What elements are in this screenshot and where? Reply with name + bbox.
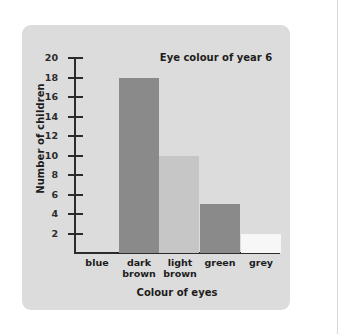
y-tick-label-2: 2 [36,229,58,238]
y-tick-16 [68,96,83,98]
y-tick-12 [68,135,83,137]
bar-dark-brown[interactable] [119,78,159,254]
y-tick-label-4: 4 [36,209,58,218]
y-tick-18 [68,77,83,79]
chart-title: Eye colour of year 6 [148,52,284,63]
y-tick-8 [68,174,83,176]
y-tick-4 [68,213,83,215]
y-tick-10 [68,155,83,157]
y-tick-label-20: 20 [36,53,58,62]
x-label-blue: blue [75,257,119,268]
y-tick-label-18: 18 [36,73,58,82]
x-label-dark-brown: dark brown [117,257,161,279]
bar-green[interactable] [200,204,240,253]
y-tick-label-10: 10 [36,151,58,160]
x-label-light-brown: light brown [158,257,202,279]
y-tick-label-8: 8 [36,170,58,179]
bar-light-brown[interactable] [159,156,199,254]
y-tick-label-12: 12 [36,131,58,140]
y-tick-6 [68,194,83,196]
y-tick-label-14: 14 [36,112,58,121]
y-tick-label-16: 16 [36,92,58,101]
bar-grey[interactable] [241,234,281,254]
bar-chart: Eye colour of year 6 Number of children … [22,25,290,310]
y-tick-20 [68,57,83,59]
x-label-grey: grey [239,257,283,268]
page-margin-rule [337,0,338,334]
y-tick-14 [68,116,83,118]
figure-panel: Eye colour of year 6 Number of children … [22,25,290,310]
y-tick-label-6: 6 [36,190,58,199]
page-background: Eye colour of year 6 Number of children … [0,0,345,334]
x-axis-title: Colour of eyes [74,287,280,298]
x-label-green: green [198,257,242,268]
y-tick-2 [68,233,83,235]
